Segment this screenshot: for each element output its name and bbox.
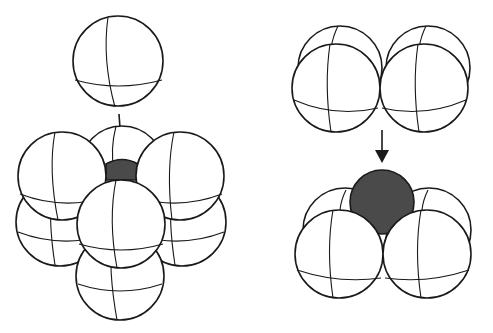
falling-sphere-left	[73, 16, 163, 107]
sphere-packing-diagram	[0, 0, 493, 333]
arrow-down-icon-right	[375, 130, 389, 163]
sphere-bottom-front-right	[383, 210, 471, 298]
left-panel	[16, 16, 226, 320]
sphere-upper-front	[77, 180, 165, 268]
right-panel	[292, 26, 471, 298]
diagram-canvas	[0, 0, 493, 333]
octahedral-void	[106, 160, 138, 181]
sphere-top-front-left	[292, 44, 380, 132]
sphere-top-front-right	[380, 44, 468, 132]
sphere-bottom-front-left	[295, 210, 383, 298]
